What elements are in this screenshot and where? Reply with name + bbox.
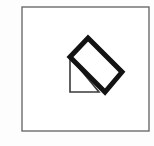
geometric-figure-panel [0,0,154,146]
figure-canvas [0,0,154,146]
